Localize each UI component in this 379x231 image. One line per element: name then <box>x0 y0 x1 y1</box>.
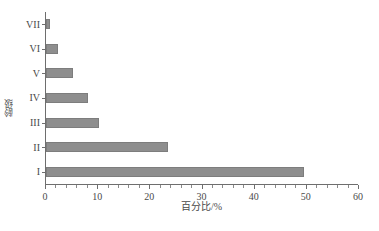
x-axis-tick-minor <box>55 185 56 188</box>
y-axis-tick-labels: VII VI V IV III II I <box>14 12 45 184</box>
x-axis-tick-minor <box>76 185 77 188</box>
x-axis-tick-minor <box>348 185 349 188</box>
x-axis-tick-minor <box>191 185 192 188</box>
bar-row <box>46 37 58 62</box>
x-axis-tick-minor <box>128 185 129 188</box>
y-tick-label-vi: VI <box>29 37 40 62</box>
bar-ii[interactable] <box>46 142 168 152</box>
x-axis-tick-minor <box>212 185 213 188</box>
bar-vi[interactable] <box>46 44 58 54</box>
y-tick-label-iv: IV <box>29 86 40 111</box>
plot-area: 0102030405060 <box>45 12 358 184</box>
bar-row <box>46 135 168 160</box>
bar-row <box>46 86 88 111</box>
x-axis-tick-minor <box>243 185 244 188</box>
bar-vii[interactable] <box>46 19 50 29</box>
bar-chart-figure: 龄级 VII VI V IV III II I <box>0 0 379 231</box>
x-axis-tick-major <box>306 185 307 189</box>
x-axis-tick-minor <box>66 185 67 188</box>
x-axis-tick-minor <box>316 185 317 188</box>
x-axis-tick-minor <box>181 185 182 188</box>
x-axis-tick-major <box>358 185 359 189</box>
y-axis-tick-i <box>42 172 45 173</box>
x-axis-tick-minor <box>139 185 140 188</box>
x-axis-tick-major <box>254 185 255 189</box>
x-axis-tick-minor <box>327 185 328 188</box>
y-tick-label-ii: II <box>33 135 40 160</box>
y-tick-label-v: V <box>33 61 40 86</box>
y-axis-tick-vii <box>42 24 45 25</box>
x-axis-tick-minor <box>170 185 171 188</box>
bar-v[interactable] <box>46 68 73 78</box>
x-axis-tick-major <box>149 185 150 189</box>
x-axis-tick-major <box>202 185 203 189</box>
bar-row <box>46 159 304 184</box>
x-axis-tick-minor <box>285 185 286 188</box>
y-axis-tick-vi <box>42 49 45 50</box>
y-axis-tick-iv <box>42 98 45 99</box>
x-axis-tick-minor <box>233 185 234 188</box>
y-tick-label-iii: III <box>30 110 40 135</box>
y-axis-tick-iii <box>42 123 45 124</box>
bar-iv[interactable] <box>46 93 88 103</box>
bar-i[interactable] <box>46 167 304 177</box>
x-axis-tick-minor <box>275 185 276 188</box>
x-axis-tick-minor <box>337 185 338 188</box>
x-axis-tick-minor <box>118 185 119 188</box>
x-axis-tick-minor <box>108 185 109 188</box>
bar-row <box>46 110 99 135</box>
x-axis-title: 百分比/% <box>45 198 358 213</box>
x-axis-tick-minor <box>87 185 88 188</box>
x-axis-tick-minor <box>264 185 265 188</box>
x-axis-tick-minor <box>295 185 296 188</box>
y-axis-tick-ii <box>42 147 45 148</box>
x-axis-tick-minor <box>160 185 161 188</box>
bar-iii[interactable] <box>46 118 99 128</box>
bar-row <box>46 12 50 37</box>
y-tick-label-i: I <box>37 159 40 184</box>
y-tick-label-vii: VII <box>26 12 40 37</box>
x-axis-tick-minor <box>222 185 223 188</box>
y-axis-tick-v <box>42 73 45 74</box>
bar-row <box>46 61 73 86</box>
x-axis-tick-major <box>45 185 46 189</box>
x-axis-tick-major <box>97 185 98 189</box>
